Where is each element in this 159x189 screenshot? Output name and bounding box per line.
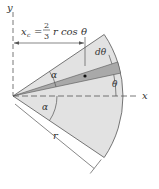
alpha-top-label: α (51, 70, 57, 80)
fraction-numerator: 2 (44, 21, 49, 30)
xc-subscript: c (27, 31, 31, 38)
theta-label: θ (112, 79, 118, 89)
element-centroid-dot (83, 74, 86, 77)
circular-sector-diagram: y x x c = 2 3 r cos θ dθ θ α α r (0, 0, 159, 189)
dtheta-label: dθ (95, 47, 107, 57)
equals-sign: = (34, 26, 42, 37)
y-axis-label: y (6, 2, 13, 13)
x-axis-label: x (142, 90, 148, 101)
fraction-denominator: 3 (44, 32, 49, 41)
formula-rest: r cos θ (53, 26, 87, 37)
alpha-bottom-label: α (42, 102, 48, 112)
